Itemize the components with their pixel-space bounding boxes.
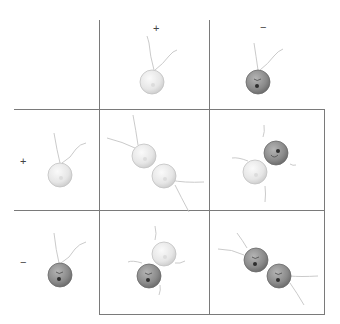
plus-cell-icon <box>140 36 177 94</box>
plus-cell-icon <box>48 133 86 187</box>
pairing-plus-plus <box>107 115 204 212</box>
minus-cell-icon <box>48 233 86 287</box>
pairing-minus-plus <box>128 226 185 295</box>
pairing-plus-minus <box>232 125 296 202</box>
minus-cell-icon <box>246 43 283 94</box>
cell-illustrations <box>0 0 340 324</box>
pairing-minus-minus <box>218 233 318 305</box>
